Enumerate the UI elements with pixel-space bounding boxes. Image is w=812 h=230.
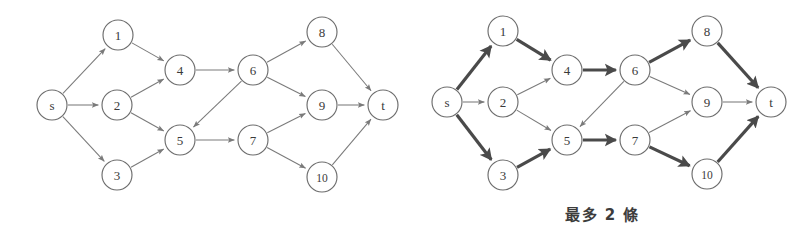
node-5[interactable]: 5	[165, 125, 195, 155]
node-3[interactable]: 3	[102, 160, 132, 190]
node-1[interactable]: 1	[103, 20, 133, 50]
edge-2-to-4	[517, 78, 550, 95]
node-10[interactable]: 10	[692, 159, 722, 189]
edge-1-to-4	[517, 39, 551, 60]
edge-7-to-9	[649, 111, 690, 133]
edge-6-to-5	[193, 81, 241, 127]
node-label-4: 4	[564, 63, 571, 78]
node-label-6: 6	[250, 63, 257, 78]
node-10[interactable]: 10	[307, 162, 337, 192]
node-8[interactable]: 8	[692, 16, 722, 46]
node-label-8: 8	[704, 24, 711, 39]
node-8[interactable]: 8	[307, 17, 337, 47]
node-s[interactable]: s	[432, 87, 462, 117]
edge-6-to-5	[580, 81, 624, 126]
node-label-9: 9	[319, 98, 326, 113]
node-6[interactable]: 6	[238, 55, 268, 85]
node-label-6: 6	[632, 63, 639, 78]
node-3[interactable]: 3	[488, 160, 518, 190]
node-label-t: t	[769, 95, 773, 110]
edge-s-to-3	[457, 115, 492, 160]
node-label-1: 1	[115, 28, 122, 43]
node-label-2: 2	[500, 95, 507, 110]
node-label-7: 7	[250, 133, 257, 148]
node-label-5: 5	[564, 133, 571, 148]
edge-s-to-1	[457, 46, 491, 89]
edge-6-to-8	[649, 40, 690, 62]
node-1[interactable]: 1	[488, 16, 518, 46]
edge-2-to-4	[131, 79, 164, 97]
node-label-4: 4	[177, 63, 184, 78]
node-label-9: 9	[704, 95, 711, 110]
edge-1-to-4	[132, 43, 164, 61]
node-label-8: 8	[319, 25, 326, 40]
edge-6-to-9	[650, 77, 690, 95]
node-2[interactable]: 2	[102, 90, 132, 120]
node-label-5: 5	[177, 133, 184, 148]
node-label-10: 10	[316, 172, 328, 184]
diagram-canvas: s12345678910ts12345678910t	[0, 0, 812, 230]
node-label-2: 2	[114, 98, 121, 113]
node-label-7: 7	[632, 133, 639, 148]
node-7[interactable]: 7	[620, 125, 650, 155]
node-9[interactable]: 9	[692, 87, 722, 117]
node-t[interactable]: t	[368, 90, 398, 120]
edge-s-to-1	[63, 49, 105, 94]
node-7[interactable]: 7	[238, 125, 268, 155]
node-9[interactable]: 9	[307, 90, 337, 120]
nodes-layer: s12345678910ts12345678910t	[37, 16, 786, 192]
node-label-3: 3	[114, 168, 121, 183]
node-label-1: 1	[500, 24, 507, 39]
node-label-3: 3	[500, 168, 507, 183]
node-label-10: 10	[701, 169, 713, 181]
node-5[interactable]: 5	[552, 125, 582, 155]
edge-10-to-t	[718, 116, 759, 162]
node-6[interactable]: 6	[620, 55, 650, 85]
edge-3-to-5	[517, 149, 550, 167]
edge-2-to-5	[517, 110, 551, 130]
edge-s-to-3	[63, 117, 104, 162]
edge-7-to-10	[649, 147, 689, 166]
node-label-t: t	[381, 98, 385, 113]
node-label-s: s	[49, 98, 54, 113]
node-s[interactable]: s	[37, 90, 67, 120]
edge-2-to-5	[131, 113, 164, 131]
node-label-s: s	[444, 95, 449, 110]
edge-8-to-t	[332, 44, 371, 90]
edge-3-to-5	[131, 149, 164, 167]
node-4[interactable]: 4	[165, 55, 195, 85]
edge-6-to-8	[267, 41, 306, 62]
node-4[interactable]: 4	[552, 55, 582, 85]
edge-8-to-t	[718, 43, 758, 88]
node-2[interactable]: 2	[488, 87, 518, 117]
highlighted-flow-network-nodes: s12345678910t	[432, 16, 786, 190]
caption-max-two-paths: 最多 2 條	[565, 203, 640, 224]
node-t[interactable]: t	[756, 87, 786, 117]
figure-container: s12345678910ts12345678910t 最多 2 條	[0, 0, 812, 230]
edge-10-to-t	[332, 119, 371, 165]
edge-6-to-9	[267, 77, 305, 96]
edge-7-to-10	[267, 148, 306, 169]
edge-7-to-9	[267, 113, 305, 132]
edges-layer	[63, 39, 758, 168]
